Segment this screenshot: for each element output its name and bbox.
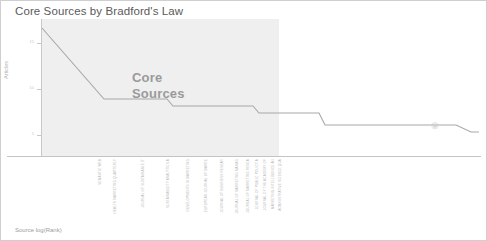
x-tick-label: JOURNAL OF BUSINESS RESEAR <box>220 159 224 212</box>
x-tick-label: SEMANTIC WEB <box>98 159 102 185</box>
core-sources-annotation: Core Sources <box>132 70 185 102</box>
x-tick-label: EUROPEAN JOURNAL OF MARKE <box>204 159 208 212</box>
annotation-line-1: Core <box>132 70 185 86</box>
x-tick-label: ADMINISTRATIVE SCIENCE QUA <box>278 159 282 211</box>
y-tick-2: 5 <box>37 135 42 136</box>
x-tick-label: MARKETING INTELLIGENCE AN <box>271 159 275 209</box>
x-axis-line <box>7 156 481 157</box>
x-tick-label: JOURNAL OF SUSTAINABLE IT <box>141 159 145 208</box>
y-tick-0: 15 <box>37 43 42 44</box>
chart-container: Core Sources by Bradford's Law 15 10 5 A… <box>0 0 487 241</box>
x-tick-label: SUSTAINABILITY ANALYTICS A <box>166 159 170 208</box>
x-tick-label: JOURNAL OF THE ACADEMY OF <box>263 159 267 210</box>
chart-title: Core Sources by Bradford's Law <box>15 5 183 17</box>
x-tick-label: DEVELOPMENTS IN MARKETING <box>186 159 190 211</box>
y-axis-label: Articles <box>3 61 9 79</box>
watermark-icon: ◉ <box>428 119 441 132</box>
x-tick-label: JOURNAL OF PUBLIC POLICY A <box>255 159 259 209</box>
x-tick-label: HEALTH MARKETING QUARTERLY <box>113 159 117 214</box>
x-tick-label: JOURNAL OF MARKETING RESEA <box>246 159 250 213</box>
y-tick-1: 10 <box>37 89 42 90</box>
x-axis-caption: Source log(Rank) <box>15 227 62 233</box>
x-tick-label: JOURNAL OF MARKETING MANAG <box>235 159 239 214</box>
annotation-line-2: Sources <box>132 86 185 102</box>
